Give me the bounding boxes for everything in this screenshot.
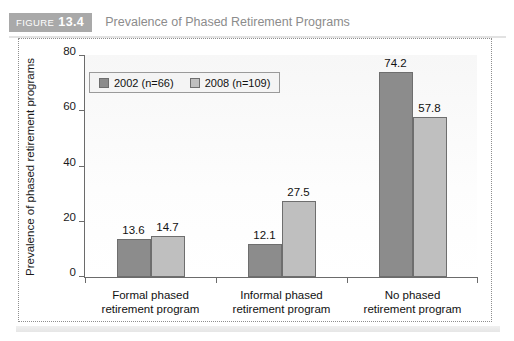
x-axis-tick [477, 277, 478, 283]
category-label-line: No phased [364, 288, 462, 302]
legend-swatch-icon [190, 78, 200, 88]
x-axis-tick [347, 277, 348, 283]
figure-container: FIGURE 13.4 Prevalence of Phased Retirem… [0, 0, 514, 341]
category-label-line: retirement program [102, 302, 200, 316]
x-axis-category-label: Formal phasedretirement program [102, 288, 200, 316]
bar-0-1 [248, 244, 282, 277]
y-axis-tick [79, 55, 85, 56]
y-axis-tick [79, 166, 85, 167]
bar-0-0 [117, 239, 151, 277]
legend-label: 2008 (n=109) [205, 77, 271, 89]
y-axis-tick-label: 0 [70, 266, 76, 278]
figure-frame-bottom [18, 321, 492, 323]
bar-0-2 [379, 72, 413, 277]
figure-title: Prevalence of Phased Retirement Programs [105, 15, 350, 29]
legend-entry-0[interactable]: 2002 (n=66) [99, 77, 174, 89]
plot-area: 020406080 13.614.712.127.574.257.8 Forma… [84, 55, 477, 278]
bar-1-1 [282, 201, 316, 277]
bar-value-label: 27.5 [287, 186, 309, 198]
bar-value-label: 57.8 [418, 102, 440, 114]
y-axis-tick-label: 60 [63, 100, 76, 112]
bar-1-2 [413, 117, 447, 277]
x-axis-tick [216, 277, 217, 283]
legend-swatch-icon [99, 78, 109, 88]
category-label-line: retirement program [233, 302, 331, 316]
category-label-line: Informal phased [233, 288, 331, 302]
chart-legend: 2002 (n=66)2008 (n=109) [89, 72, 280, 93]
x-axis-tick [85, 277, 86, 283]
bar-value-label: 14.7 [156, 221, 178, 233]
y-axis-tick [79, 221, 85, 222]
y-axis-tick-label: 20 [63, 211, 76, 223]
bar-value-label: 74.2 [384, 57, 406, 69]
y-axis-tick-label: 80 [63, 45, 76, 57]
figure-header: FIGURE 13.4 Prevalence of Phased Retirem… [0, 8, 514, 36]
figure-number-badge: FIGURE 13.4 [9, 13, 92, 32]
figure-badge-word: FIGURE [16, 18, 54, 28]
y-axis-tick-label: 40 [63, 156, 76, 168]
x-axis-category-label: Informal phasedretirement program [233, 288, 331, 316]
x-axis-category-label: No phasedretirement program [364, 288, 462, 316]
category-label-line: Formal phased [102, 288, 200, 302]
category-label-line: retirement program [364, 302, 462, 316]
bar-value-label: 13.6 [122, 224, 144, 236]
page-bottom-shading [16, 326, 500, 332]
legend-entry-1[interactable]: 2008 (n=109) [190, 77, 271, 89]
figure-badge-number: 13.4 [58, 16, 84, 29]
y-axis-tick [79, 110, 85, 111]
figure-frame-top [18, 38, 492, 40]
legend-label: 2002 (n=66) [114, 77, 174, 89]
bar-1-0 [151, 236, 185, 277]
y-axis-title: Prevalence of phased retirement programs [24, 58, 36, 276]
bar-value-label: 12.1 [253, 229, 275, 241]
